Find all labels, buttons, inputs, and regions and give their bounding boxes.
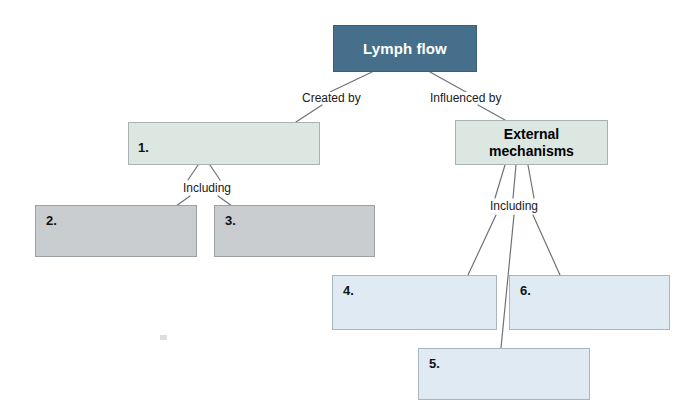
edge-created-by-to-box1 xyxy=(296,105,322,122)
node-external-mechanisms-line1: External xyxy=(504,126,559,142)
node-external-mechanisms-line2: mechanisms xyxy=(489,143,574,159)
edge-label-including-right: Including xyxy=(487,200,541,212)
edge-box1-to-including-left-a xyxy=(188,165,198,180)
edge-external-to-including-right-a xyxy=(495,165,505,198)
node-external-mechanisms-label: External mechanisms xyxy=(489,126,574,160)
node-lymph-flow-label: Lymph flow xyxy=(363,40,447,57)
edge-box1-to-including-left-b xyxy=(210,165,220,180)
edge-label-created-by: Created by xyxy=(299,92,364,104)
node-answer-box-1[interactable]: 1. xyxy=(128,122,320,165)
edge-label-influenced-by: Influenced by xyxy=(427,92,504,104)
concept-map-canvas: Lymph flow Created by Influenced by Incl… xyxy=(0,0,685,416)
edge-external-to-including-right-c xyxy=(528,165,534,198)
scan-artifact xyxy=(160,335,167,340)
edge-label-including-left: Including xyxy=(180,182,234,194)
edge-including-right-to-box4 xyxy=(468,215,496,275)
edge-including-right-to-box6 xyxy=(533,215,560,275)
node-answer-box-2-number: 2. xyxy=(36,206,57,227)
node-answer-box-1-number: 1. xyxy=(129,134,149,154)
node-answer-box-4-number: 4. xyxy=(333,276,354,297)
node-answer-box-2[interactable]: 2. xyxy=(35,205,197,257)
edge-influenced-by-to-external xyxy=(478,105,505,120)
node-external-mechanisms: External mechanisms xyxy=(455,120,608,165)
node-lymph-flow: Lymph flow xyxy=(333,25,477,72)
node-answer-box-5[interactable]: 5. xyxy=(418,348,590,400)
edge-root-to-created-by xyxy=(330,72,372,92)
node-answer-box-4[interactable]: 4. xyxy=(332,275,497,330)
edge-root-to-influenced-by xyxy=(430,72,466,92)
node-answer-box-5-number: 5. xyxy=(419,349,440,370)
node-answer-box-3-number: 3. xyxy=(215,206,236,227)
node-answer-box-6[interactable]: 6. xyxy=(509,275,670,330)
edge-external-to-including-right-b xyxy=(513,165,516,198)
node-answer-box-6-number: 6. xyxy=(510,276,531,297)
node-answer-box-3[interactable]: 3. xyxy=(214,205,375,257)
